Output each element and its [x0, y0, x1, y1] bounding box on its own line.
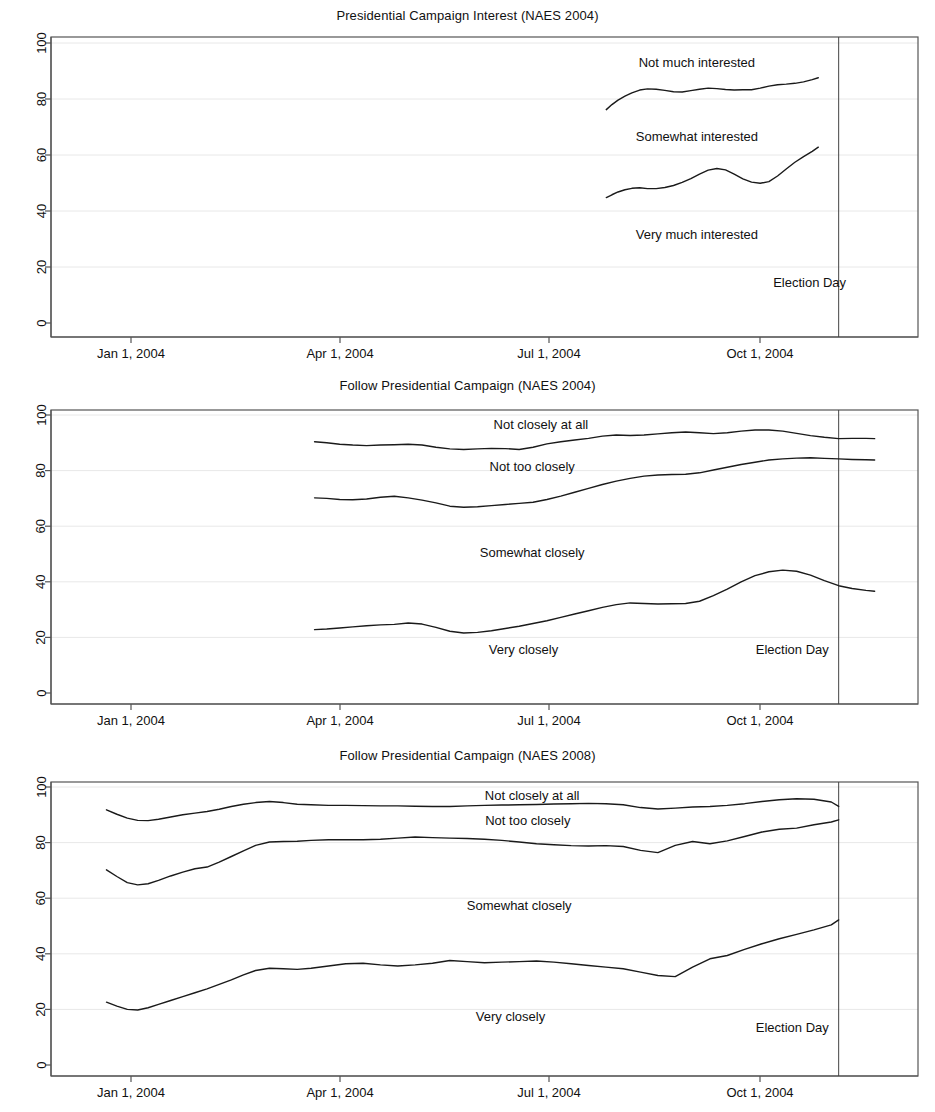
y-tick-label: 100	[34, 404, 49, 426]
y-tick-label: 60	[34, 148, 49, 162]
x-tick-label: Jul 1, 2004	[517, 1085, 581, 1100]
y-tick-label: 60	[34, 519, 49, 533]
panel-3-plot: 020406080100Jan 1, 2004Apr 1, 2004Jul 1,…	[0, 740, 935, 1110]
x-tick-label: Jan 1, 2004	[97, 1085, 165, 1100]
x-tick-label: Jul 1, 2004	[517, 713, 581, 728]
x-tick-label: Apr 1, 2004	[306, 713, 373, 728]
series-line-0	[315, 430, 875, 449]
series-annotation-2: Somewhat closely	[467, 898, 572, 913]
series-line-1	[106, 820, 838, 885]
y-tick-label: 0	[34, 689, 49, 696]
y-tick-label: 20	[34, 630, 49, 644]
x-tick-label: Jan 1, 2004	[97, 346, 165, 361]
panel-1-plot: 020406080100Jan 1, 2004Apr 1, 2004Jul 1,…	[0, 0, 935, 370]
series-annotation-3: Very closely	[476, 1009, 546, 1024]
series-annotation-1: Somewhat interested	[636, 129, 758, 144]
chart-panel-3: Follow Presidential Campaign (NAES 2008)…	[0, 740, 935, 1112]
x-tick-label: Jul 1, 2004	[517, 346, 581, 361]
y-tick-label: 40	[34, 575, 49, 589]
series-annotation-0: Not much interested	[639, 55, 755, 70]
plot-frame	[51, 37, 918, 337]
x-tick-label: Jan 1, 2004	[97, 713, 165, 728]
series-annotation-1: Not too closely	[485, 813, 571, 828]
chart-panel-1: Presidential Campaign Interest (NAES 200…	[0, 0, 935, 370]
panel-3-svg: 020406080100Jan 1, 2004Apr 1, 2004Jul 1,…	[0, 740, 935, 1112]
x-tick-label: Apr 1, 2004	[306, 346, 373, 361]
panel-1-svg: 020406080100Jan 1, 2004Apr 1, 2004Jul 1,…	[0, 0, 935, 370]
panel-2-svg: 020406080100Jan 1, 2004Apr 1, 2004Jul 1,…	[0, 370, 935, 740]
y-tick-label: 40	[34, 204, 49, 218]
y-tick-label: 0	[34, 319, 49, 326]
series-annotation-1: Not too closely	[490, 459, 576, 474]
election-day-label: Election Day	[773, 275, 846, 290]
series-line-1	[315, 458, 875, 507]
y-tick-label: 80	[34, 463, 49, 477]
series-line-2	[315, 570, 875, 633]
chart-panel-2: Follow Presidential Campaign (NAES 2004)…	[0, 370, 935, 740]
y-tick-label: 20	[34, 1002, 49, 1016]
y-tick-label: 80	[34, 92, 49, 106]
x-tick-label: Oct 1, 2004	[726, 346, 793, 361]
x-tick-label: Oct 1, 2004	[726, 1085, 793, 1100]
y-tick-label: 100	[34, 32, 49, 54]
series-line-0	[606, 78, 818, 110]
x-tick-label: Oct 1, 2004	[726, 713, 793, 728]
series-line-2	[106, 920, 838, 1010]
series-annotation-0: Not closely at all	[485, 788, 580, 803]
y-tick-label: 40	[34, 947, 49, 961]
series-line-0	[106, 799, 838, 821]
series-annotation-2: Somewhat closely	[480, 545, 585, 560]
figure-sheet: Presidential Campaign Interest (NAES 200…	[0, 0, 935, 1112]
series-annotation-3: Very closely	[489, 642, 559, 657]
series-annotation-2: Very much interested	[636, 227, 758, 242]
election-day-label: Election Day	[756, 1020, 829, 1035]
panel-2-plot: 020406080100Jan 1, 2004Apr 1, 2004Jul 1,…	[0, 370, 935, 740]
y-tick-label: 80	[34, 835, 49, 849]
series-annotation-0: Not closely at all	[494, 417, 589, 432]
y-tick-label: 0	[34, 1061, 49, 1068]
election-day-label: Election Day	[756, 642, 829, 657]
y-tick-label: 20	[34, 260, 49, 274]
x-tick-label: Apr 1, 2004	[306, 1085, 373, 1100]
y-tick-label: 60	[34, 891, 49, 905]
y-tick-label: 100	[34, 776, 49, 798]
